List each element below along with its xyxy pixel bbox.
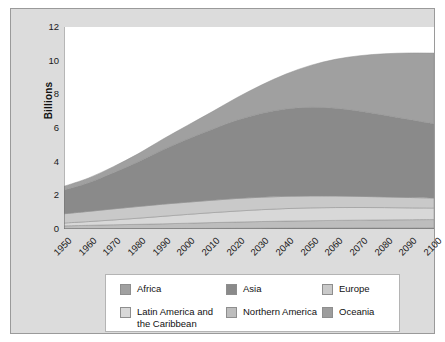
legend-item[interactable]: Europe [322,283,370,295]
legend-item[interactable]: Latin America and the Caribbean [120,306,213,329]
x-tick-label: 2020 [219,235,247,263]
legend-swatch-icon [120,284,131,295]
x-tick-label: 1980 [120,235,148,263]
legend-item[interactable]: Asia [226,283,261,295]
y-tick-label: 8 [37,88,59,99]
legend-label: Northern America [243,306,317,318]
x-tick-label: 2060 [318,235,346,263]
x-tick-label: 2010 [194,235,222,263]
figure-root: Billions 024681012 195019601970198019902… [0,0,445,342]
legend-swatch-icon [226,307,237,318]
legend-label: Latin America and the Caribbean [137,306,213,329]
x-tick-label: 1970 [96,235,124,263]
legend-item[interactable]: Oceania [322,306,374,318]
x-tick-label: 2090 [392,235,420,263]
legend-grid: AfricaAsiaEuropeLatin America and the Ca… [106,275,399,331]
stacked-area-chart [64,27,434,229]
legend: AfricaAsiaEuropeLatin America and the Ca… [105,274,400,332]
legend-label: Oceania [339,306,374,318]
y-tick-label: 10 [37,55,59,66]
y-tick-label: 6 [37,122,59,133]
legend-swatch-icon [120,307,131,318]
legend-item[interactable]: Africa [120,283,161,295]
x-tick-label: 1950 [46,235,74,263]
chart-panel: Billions 024681012 195019601970198019902… [10,8,435,334]
x-tick-label: 2070 [342,235,370,263]
x-tick-label: 2000 [170,235,198,263]
legend-label: Europe [339,283,370,295]
x-tick-label: 2040 [268,235,296,263]
plot-area [64,27,434,229]
y-tick-label: 0 [37,223,59,234]
legend-label: Asia [243,283,261,295]
y-tick-label: 4 [37,156,59,167]
x-tick-label: 2080 [367,235,395,263]
x-axis-tick-labels: 1950196019701980199020002010202020302040… [64,231,444,271]
legend-swatch-icon [322,307,333,318]
x-tick-label: 2100 [416,235,444,263]
x-tick-label: 2030 [244,235,272,263]
x-tick-label: 1990 [145,235,173,263]
x-tick-label: 1960 [71,235,99,263]
legend-label: Africa [137,283,161,295]
legend-swatch-icon [322,284,333,295]
legend-swatch-icon [226,284,237,295]
x-tick-label: 2050 [293,235,321,263]
y-tick-label: 12 [37,21,59,32]
legend-item[interactable]: Northern America [226,306,317,318]
y-tick-label: 2 [37,189,59,200]
y-axis-tick-labels: 024681012 [33,27,59,229]
